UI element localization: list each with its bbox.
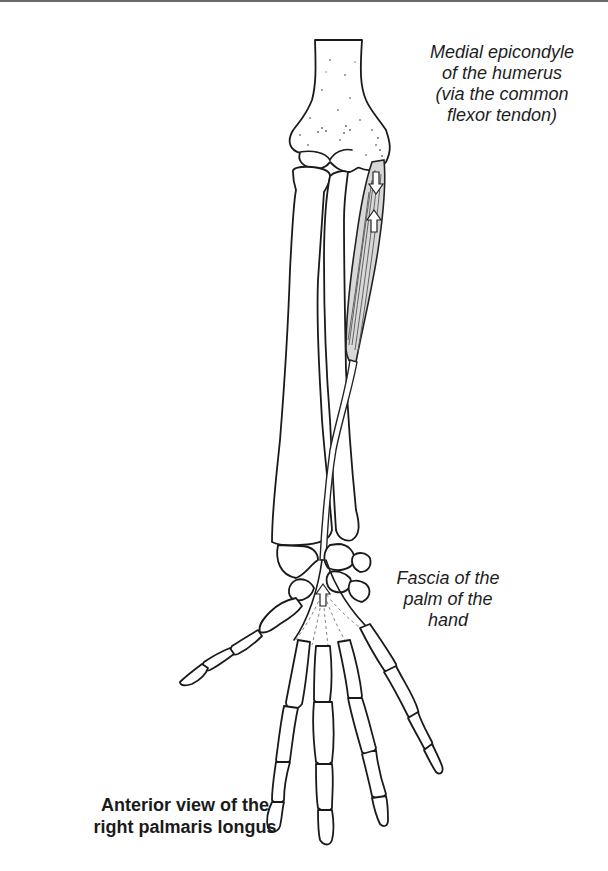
caption-line-1: Anterior view of the <box>70 794 300 816</box>
ring-finger-bones <box>338 640 388 826</box>
forearm-illustration <box>0 0 608 871</box>
caption-line-2: right palmaris longus <box>70 816 300 838</box>
insertion-label-line-2: palm of the <box>378 589 518 610</box>
origin-label-line-3: (via the common <box>414 84 590 105</box>
figure-caption: Anterior view of the right palmaris long… <box>70 794 300 838</box>
origin-label-line-1: Medial epicondyle <box>414 42 590 63</box>
insertion-label-line-1: Fascia of the <box>378 568 518 589</box>
insertion-label: Fascia of the palm of the hand <box>378 568 518 631</box>
middle-finger-bones <box>313 646 333 845</box>
origin-label-line-2: of the humerus <box>414 63 590 84</box>
radius <box>272 167 332 546</box>
origin-label: Medial epicondyle of the humerus (via th… <box>414 42 590 126</box>
origin-label-line-4: flexor tendon) <box>414 105 590 126</box>
thumb-bones <box>180 598 302 685</box>
insertion-label-line-3: hand <box>378 610 518 631</box>
humerus <box>290 40 390 172</box>
